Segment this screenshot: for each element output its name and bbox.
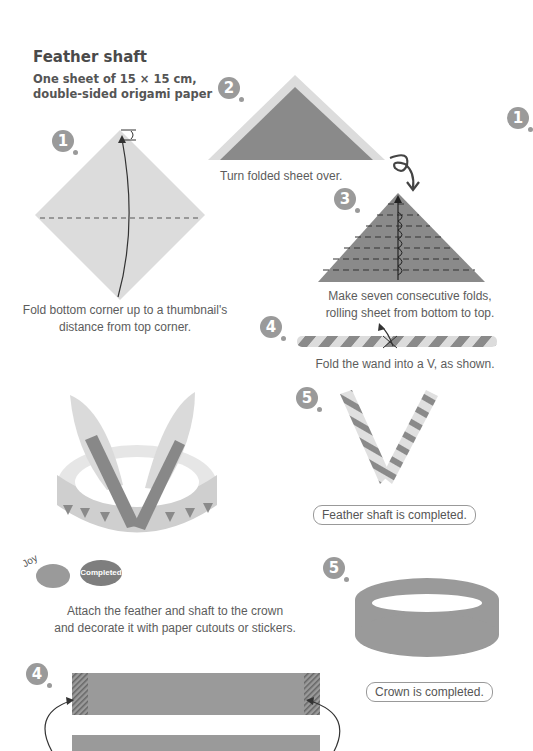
final-caption-line1: Attach the feather and shaft to the crow… (40, 603, 310, 620)
section-title: Feather shaft (33, 48, 147, 66)
crown-ring-diagram (352, 575, 502, 660)
step1-caption-line2: distance from top corner. (0, 319, 250, 336)
step-badge-1-next-page: 1 (507, 107, 529, 129)
completed-sticker: Completed (80, 560, 122, 586)
materials-note: One sheet of 15 × 15 cm, double-sided or… (33, 72, 212, 102)
crown-completed-label: Crown is completed. (366, 682, 493, 702)
step4-caption: Fold the wand into a V, as shown. (300, 356, 510, 373)
materials-line-1: One sheet of 15 × 15 cm, (33, 72, 212, 87)
turn-over-arrow-icon (385, 150, 425, 195)
feather-shaft-completed-label: Feather shaft is completed. (313, 505, 476, 525)
step1-caption-line1: Fold bottom corner up to a thumbnail's (0, 302, 250, 319)
crown-strips-diagram (10, 665, 350, 751)
final-caption: Attach the feather and shaft to the crow… (40, 603, 310, 637)
step-badge-5-crown: 5 (323, 557, 345, 579)
step1-caption: Fold bottom corner up to a thumbnail's d… (0, 302, 250, 336)
step-badge-4-shaft: 4 (260, 316, 282, 338)
step4-striped-wand-diagram (295, 322, 500, 352)
step5-v-shaft-diagram (330, 388, 450, 488)
materials-line-2: double-sided origami paper (33, 87, 212, 102)
step3-caption-line1: Make seven consecutive folds, (300, 288, 520, 305)
step2-caption: Turn folded sheet over. (220, 168, 370, 185)
step3-rolled-folds-diagram (315, 190, 490, 285)
step1-square-diagram (30, 125, 210, 300)
step3-caption-line2: rolling sheet from bottom to top. (300, 305, 520, 322)
finished-headdress-image (45, 390, 225, 550)
step2-triangle-diagram (205, 72, 390, 164)
joy-sticker-text: Joy (20, 552, 39, 569)
step-badge-5-shaft: 5 (296, 387, 318, 409)
step3-caption: Make seven consecutive folds, rolling sh… (300, 288, 520, 322)
final-caption-line2: and decorate it with paper cutouts or st… (40, 620, 310, 637)
sticker-blob-icon (36, 564, 70, 588)
